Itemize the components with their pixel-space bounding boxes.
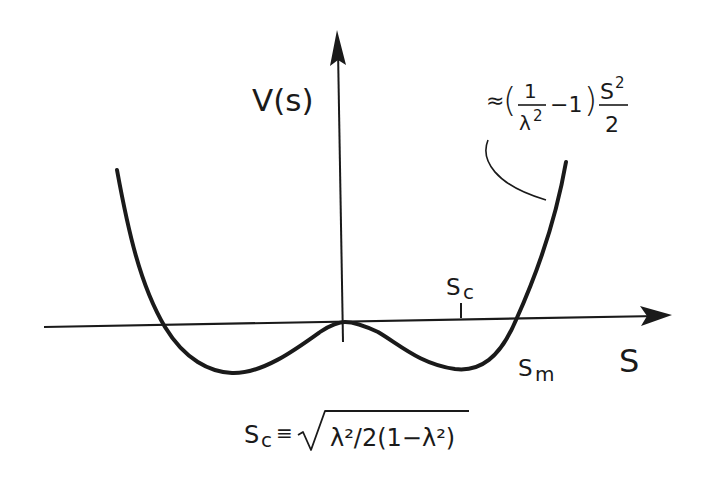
svg-text:c: c xyxy=(261,428,272,452)
svg-text:S: S xyxy=(244,421,259,449)
svg-text:2: 2 xyxy=(615,74,625,92)
svg-text:(: ( xyxy=(503,80,516,120)
potential-diagram: V(s) S S c S m ≈ ( 1 λ 2 −1 ) S 2 2 S c … xyxy=(0,0,704,479)
svg-text:): ) xyxy=(584,80,597,120)
svg-text:1: 1 xyxy=(524,79,537,103)
svg-text:c: c xyxy=(463,280,474,304)
x-axis-label: S xyxy=(619,342,639,380)
svg-text:≈: ≈ xyxy=(486,88,504,113)
svg-text:2: 2 xyxy=(605,112,619,137)
svg-text:−1: −1 xyxy=(550,92,582,117)
svg-text:≡: ≡ xyxy=(276,421,293,445)
y-axis xyxy=(330,30,346,342)
svg-text:2: 2 xyxy=(533,107,543,125)
svg-text:S: S xyxy=(446,274,461,300)
annotation-leader-line xyxy=(486,140,546,200)
sc-label: S c xyxy=(446,274,474,304)
svg-text:λ: λ xyxy=(519,111,531,135)
svg-text:λ²/2(1−λ²): λ²/2(1−λ²) xyxy=(330,424,455,452)
sc-definition: S c ≡ λ²/2(1−λ²) xyxy=(244,411,469,452)
svg-text:S: S xyxy=(518,355,533,381)
sm-label: S m xyxy=(518,355,554,386)
svg-text:S: S xyxy=(600,79,614,104)
asymptote-formula: ≈ ( 1 λ 2 −1 ) S 2 2 xyxy=(486,74,628,137)
y-axis-label: V(s) xyxy=(252,82,314,118)
svg-text:m: m xyxy=(535,362,554,386)
